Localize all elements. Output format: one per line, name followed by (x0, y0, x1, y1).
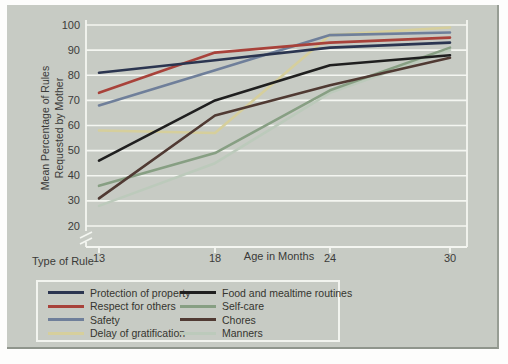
series-line-delay-of-gratification (99, 28, 450, 134)
legend-swatch (48, 318, 84, 321)
legend-swatch (180, 291, 216, 294)
legend-label: Self-care (222, 300, 264, 312)
figure-panel: Mean Percentage of Rules Requested by Mo… (7, 5, 499, 349)
legend-label: Food and mealtime routines (222, 287, 352, 299)
y-tick-label-100: 100 (46, 19, 80, 31)
y-tick-label-50: 50 (46, 144, 80, 156)
legend-item-safety: Safety (48, 313, 188, 327)
legend-column-2: Food and mealtime routinesSelf-careChore… (180, 286, 340, 340)
y-tick-label-70: 70 (46, 94, 80, 106)
x-axis-title: Age in Months (233, 250, 325, 262)
legend-item-manners: Manners (180, 327, 340, 341)
legend-swatch (48, 305, 84, 308)
y-tick-label-80: 80 (46, 69, 80, 81)
legend-item-protection-of-property: Protection of property (48, 286, 188, 300)
legend-swatch (48, 291, 84, 294)
legend-label: Respect for others (90, 300, 176, 312)
y-tick-label-90: 90 (46, 44, 80, 56)
legend-item-respect-for-others: Respect for others (48, 300, 188, 314)
legend-item-self-care: Self-care (180, 300, 340, 314)
legend-label: Chores (222, 314, 256, 326)
legend-box: Protection of propertyRespect for others… (36, 280, 340, 342)
legend-item-delay-of-gratification: Delay of gratification (48, 327, 188, 341)
y-tick-label-20: 20 (46, 220, 80, 232)
x-tick-label-30: 30 (433, 252, 467, 264)
x-tick-label-18: 18 (198, 252, 232, 264)
legend-item-food-and-mealtime-routines: Food and mealtime routines (180, 286, 340, 300)
legend-title: Type of Rule (32, 255, 94, 267)
legend-swatch (180, 318, 216, 321)
legend-swatch (180, 305, 216, 308)
legend-label: Delay of gratification (90, 327, 185, 339)
legend-label: Manners (222, 327, 263, 339)
legend-item-chores: Chores (180, 313, 340, 327)
legend-column-1: Protection of propertyRespect for others… (48, 286, 188, 340)
y-tick-label-60: 60 (46, 119, 80, 131)
legend-swatch (180, 332, 216, 335)
legend-label: Protection of property (90, 287, 190, 299)
legend-label: Safety (90, 314, 120, 326)
y-tick-label-40: 40 (46, 169, 80, 181)
legend-swatch (48, 332, 84, 335)
y-tick-label-30: 30 (46, 194, 80, 206)
